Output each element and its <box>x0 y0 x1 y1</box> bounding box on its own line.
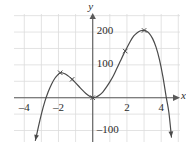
y-axis-label: y <box>88 0 93 12</box>
graph-figure: –4 –2 2 4 –100 100 200 x y <box>0 0 186 153</box>
x-tick-label-2: 2 <box>124 101 130 113</box>
y-tick-label-neg100: –100 <box>97 123 119 135</box>
x-axis-label: x <box>181 89 186 101</box>
x-axis-arrowhead <box>173 94 180 100</box>
plot-canvas <box>0 0 186 153</box>
y-tick-label-100: 100 <box>97 57 114 69</box>
x-tick-label-4: 4 <box>158 101 164 113</box>
x-tick-label-neg4: –4 <box>19 101 30 113</box>
marker-point-descending-left <box>70 77 74 81</box>
y-tick-label-200: 200 <box>97 24 114 36</box>
x-tick-label-neg2: –2 <box>53 101 64 113</box>
